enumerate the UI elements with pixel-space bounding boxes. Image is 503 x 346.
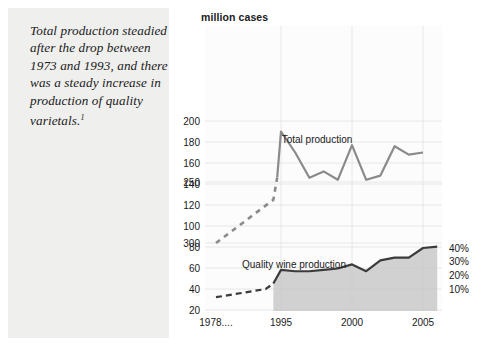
caption-text: Total production steadied after the drop…	[30, 22, 180, 130]
y-tick-label: 200	[183, 116, 200, 127]
y-tick-label: 100	[183, 221, 200, 232]
footnote-marker: 1	[80, 113, 84, 122]
figure-root: Total production steadied after the drop…	[0, 0, 503, 346]
y-tick-label: 180	[183, 137, 200, 148]
y-tick-label: 60	[189, 263, 201, 274]
y-tick-label: 40	[189, 284, 201, 295]
y-tick-label-right: 30%	[449, 256, 469, 267]
x-tick-label: 1995	[270, 317, 293, 328]
x-tick-label: 1978....	[199, 317, 232, 328]
y-tick-label: 80	[189, 242, 201, 253]
x-tick-label: 2000	[341, 317, 364, 328]
chart-area: million cases 30025020018016014012010080…	[169, 0, 503, 346]
quality-wine-label: Quality wine production	[242, 259, 346, 270]
y-tick-label: 140	[183, 179, 200, 190]
y-tick-label-right: 40%	[449, 243, 469, 254]
y-tick-label: 160	[183, 158, 200, 169]
caption-panel: Total production steadied after the drop…	[8, 8, 169, 338]
x-tick-label: 2005	[412, 317, 435, 328]
y-tick-label: 20	[189, 305, 201, 316]
y-tick-label-right: 20%	[449, 270, 469, 281]
total-production-label: Total production	[282, 134, 353, 145]
chart-svg: 3002502001801601401201008060402040%30%20…	[169, 0, 503, 346]
y-tick-label: 120	[183, 200, 200, 211]
y-tick-label-right: 10%	[449, 284, 469, 295]
caption-body: Total production steadied after the drop…	[30, 23, 168, 128]
